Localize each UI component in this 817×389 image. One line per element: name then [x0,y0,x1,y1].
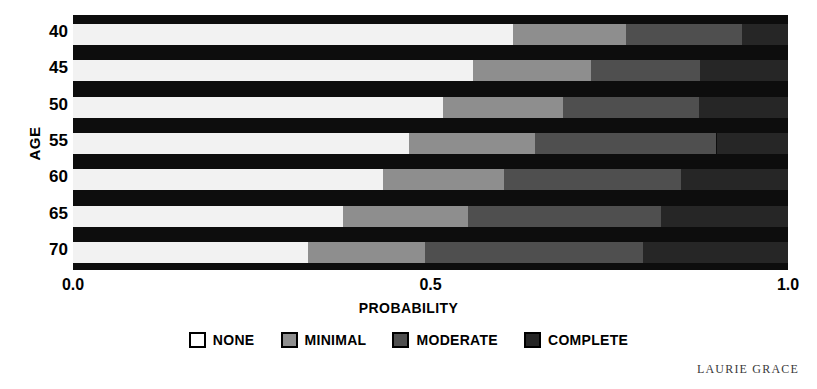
legend-swatch-icon [281,332,298,348]
y-tick-label: 70 [34,240,68,260]
bar-segment-minimal [473,60,591,81]
bar-row [73,169,788,190]
legend-item[interactable]: NONE [189,332,255,348]
bar-row [73,242,788,263]
bar-segment-none [73,133,409,154]
legend-swatch-icon [189,332,206,348]
bar-segment-moderate [504,169,681,190]
y-tick-label: 50 [34,95,68,115]
bar-segment-minimal [308,242,425,263]
bar-segment-minimal [443,97,563,118]
legend-label: COMPLETE [548,332,628,348]
bar-row [73,133,788,154]
bar-segment-moderate [626,24,742,45]
x-axis-title: PROBABILITY [0,300,817,316]
legend-item[interactable]: COMPLETE [524,332,628,348]
artist-credit: LAURIE GRACE [697,362,799,377]
bar-segment-complete [681,169,788,190]
bar-segment-none [73,206,343,227]
chart-root: AGE 40455055606570 0.00.51.0 PROBABILITY… [0,0,817,389]
y-tick-label: 45 [34,58,68,78]
bar-segment-moderate [563,97,698,118]
x-tick-label: 0.0 [43,276,103,294]
bar-segment-complete [699,97,788,118]
bar-row [73,24,788,45]
y-tick-label: 40 [34,22,68,42]
y-tick-label: 55 [34,131,68,151]
bar-segment-minimal [513,24,626,45]
bar-row [73,206,788,227]
x-tick-label: 0.5 [401,276,461,294]
bar-segment-moderate [535,133,717,154]
legend-label: MINIMAL [305,332,367,348]
legend-swatch-icon [392,332,409,348]
bar-segment-none [73,169,383,190]
bar-segment-minimal [409,133,535,154]
bar-segment-minimal [383,169,504,190]
bar-segment-moderate [468,206,661,227]
legend-item[interactable]: MINIMAL [281,332,367,348]
legend-item[interactable]: MODERATE [392,332,497,348]
bar-segment-none [73,97,443,118]
bar-segment-complete [643,242,788,263]
bar-segment-none [73,242,308,263]
x-tick-label: 1.0 [758,276,817,294]
bar-segment-moderate [425,242,643,263]
y-tick-label: 60 [34,167,68,187]
bar-row [73,60,788,81]
legend-swatch-icon [524,332,541,348]
bar-segment-complete [700,60,788,81]
bar-row [73,97,788,118]
chart-legend: NONEMINIMALMODERATECOMPLETE [0,332,817,348]
bar-segment-moderate [591,60,700,81]
bar-segment-none [73,24,513,45]
plot-area [73,15,788,270]
bar-segment-complete [717,133,789,154]
bar-segment-minimal [343,206,468,227]
legend-label: NONE [213,332,255,348]
bar-segment-none [73,60,473,81]
bar-segment-complete [742,24,788,45]
y-tick-label: 65 [34,204,68,224]
legend-label: MODERATE [416,332,497,348]
bar-segment-complete [661,206,788,227]
